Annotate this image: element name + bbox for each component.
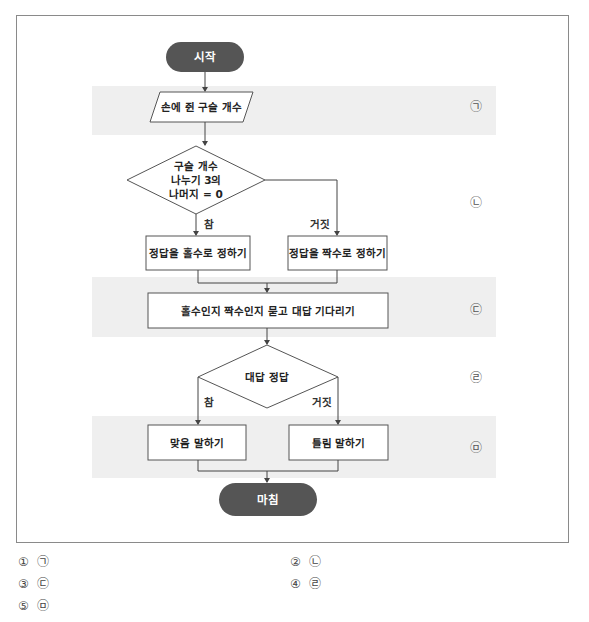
choice-4-label: ㉣ bbox=[309, 577, 321, 591]
process-true2-node: 맞음 말하기 bbox=[148, 425, 246, 460]
decision1-node: 구슬 개수 나누기 3의 나머지 = 0 bbox=[140, 157, 252, 203]
input-node: 손에 쥔 구슬 개수 bbox=[150, 92, 253, 122]
choice-4-num: ④ bbox=[290, 577, 301, 591]
start-terminal: 시작 bbox=[166, 42, 244, 72]
decision1-line-3: 나머지 = 0 bbox=[169, 187, 222, 201]
marker-b: ㉡ bbox=[466, 193, 486, 210]
choice-2-label: ㉡ bbox=[309, 555, 321, 569]
marker-c: ㉢ bbox=[466, 300, 486, 317]
choice-3[interactable]: ③㉢ bbox=[18, 574, 57, 591]
decision2-node: 대답 정답 bbox=[220, 368, 314, 386]
choice-2[interactable]: ②㉡ bbox=[290, 552, 329, 569]
choice-1-label: ㉠ bbox=[37, 555, 49, 569]
choice-3-num: ③ bbox=[18, 577, 29, 591]
decision1-line-2: 나누기 3의 bbox=[171, 173, 222, 187]
process-false2-node: 틀림 말하기 bbox=[289, 425, 388, 460]
marker-e: ㉤ bbox=[466, 438, 486, 455]
choice-5-label: ㉤ bbox=[37, 599, 49, 613]
decision1-false-label: 거짓 bbox=[310, 216, 330, 231]
decision2-false-label: 거짓 bbox=[312, 394, 332, 409]
choice-4[interactable]: ④㉣ bbox=[290, 574, 329, 591]
decision1-true-label: 참 bbox=[204, 216, 214, 231]
choice-1-num: ① bbox=[18, 555, 29, 569]
marker-d: ㉣ bbox=[466, 368, 486, 385]
choice-2-num: ② bbox=[290, 555, 301, 569]
decision2-true-label: 참 bbox=[204, 394, 214, 409]
choice-3-label: ㉢ bbox=[37, 577, 49, 591]
process-false1-node: 정답을 짝수로 정하기 bbox=[288, 236, 387, 270]
end-terminal: 마침 bbox=[219, 483, 317, 516]
decision1-line-1: 구슬 개수 bbox=[174, 159, 218, 173]
marker-a: ㉠ bbox=[466, 97, 486, 114]
process-true1-node: 정답을 홀수로 정하기 bbox=[146, 236, 250, 270]
choice-1[interactable]: ①㉠ bbox=[18, 552, 57, 569]
ask-node: 홀수인지 짝수인지 묻고 대답 기다리기 bbox=[148, 293, 388, 328]
choice-5[interactable]: ⑤㉤ bbox=[18, 596, 57, 613]
choice-5-num: ⑤ bbox=[18, 599, 29, 613]
